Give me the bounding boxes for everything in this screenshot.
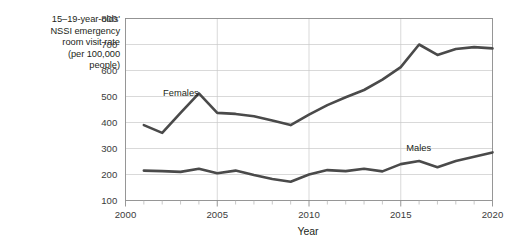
y-tick-label-800: 800 [92,13,118,24]
x-tick-label-2015: 2015 [381,209,421,220]
y-tick-label-200: 200 [92,169,118,180]
chart-figure: 15–19-year-olds' NSSI emergency room vis… [0,0,515,246]
x-axis-title: Year [268,225,348,237]
x-tick-label-2005: 2005 [197,209,237,220]
x-tick-label-2000: 2000 [106,209,146,220]
series-label-females: Females [163,88,199,98]
x-tick-label-2020: 2020 [473,209,513,220]
y-tick-label-400: 400 [92,117,118,128]
y-tick-label-300: 300 [92,143,118,154]
series-label-males: Males [406,143,431,153]
x-tick-label-2010: 2010 [289,209,329,220]
y-tick-label-100: 100 [92,195,118,206]
y-axis-title-line-4: (per 100,000 [8,49,120,61]
y-tick-label-500: 500 [92,91,118,102]
y-axis-title-line-2: NSSI emergency [8,26,120,38]
y-tick-label-700: 700 [92,39,118,50]
y-tick-label-600: 600 [92,65,118,76]
